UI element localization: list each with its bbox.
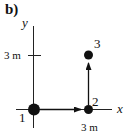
path-diagram: b) y 3 m x 3 m 1 2 3 xyxy=(0,0,129,137)
panel-label: b) xyxy=(5,1,18,18)
y-tick-label: 3 m xyxy=(4,49,21,61)
point-3-label: 3 xyxy=(94,36,101,51)
point-1-label: 1 xyxy=(19,110,26,125)
x-tick-label: 3 m xyxy=(81,121,98,133)
point-3 xyxy=(84,51,93,60)
y-axis-label: y xyxy=(20,15,28,30)
point-2-label: 2 xyxy=(92,94,99,109)
x-axis-label: x xyxy=(116,101,123,116)
point-1 xyxy=(28,104,40,116)
